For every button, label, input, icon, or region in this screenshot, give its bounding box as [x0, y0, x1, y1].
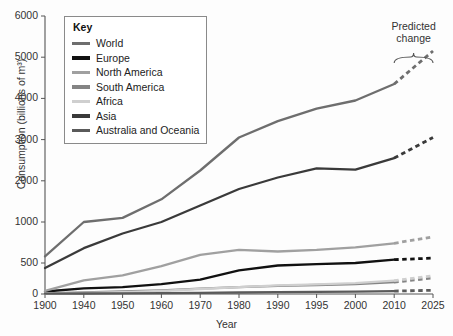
- legend-swatch-icon: [72, 71, 90, 75]
- legend-swatch-icon: [72, 114, 90, 118]
- legend-item[interactable]: Australia and Oceania: [72, 123, 199, 138]
- legend-item[interactable]: South America: [72, 80, 199, 95]
- series-predicted-europe: [394, 258, 433, 260]
- legend-item-label: Australia and Oceania: [96, 124, 199, 136]
- legend-item[interactable]: World: [72, 36, 199, 51]
- legend-item[interactable]: Europe: [72, 51, 199, 66]
- legend-item-label: South America: [96, 81, 164, 93]
- series-predicted-world: [394, 51, 433, 84]
- legend-item-label: North America: [96, 66, 163, 78]
- legend-swatch-icon: [72, 85, 90, 89]
- series-predicted-australia-and-oceania: [394, 290, 433, 291]
- predicted-change-annotation: Predicted change: [376, 20, 451, 44]
- legend-item-label: World: [96, 37, 123, 49]
- series-predicted-asia: [394, 138, 433, 159]
- legend: Key WorldEuropeNorth AmericaSouth Americ…: [64, 16, 207, 144]
- legend-swatch-icon: [72, 42, 90, 46]
- legend-swatch-icon: [72, 129, 90, 133]
- consumption-line-chart: Consumption (billions of m³) Year 050010…: [0, 0, 453, 336]
- series-line-europe: [45, 260, 394, 292]
- legend-swatch-icon: [72, 100, 90, 104]
- legend-item[interactable]: North America: [72, 65, 199, 80]
- legend-item-label: Africa: [96, 95, 123, 107]
- legend-title: Key: [73, 21, 199, 33]
- legend-item-label: Asia: [96, 110, 116, 122]
- legend-item[interactable]: Africa: [72, 94, 199, 109]
- series-predicted-north-america: [394, 237, 433, 244]
- legend-item-label: Europe: [96, 52, 130, 64]
- legend-swatch-icon: [72, 56, 90, 60]
- legend-item[interactable]: Asia: [72, 109, 199, 124]
